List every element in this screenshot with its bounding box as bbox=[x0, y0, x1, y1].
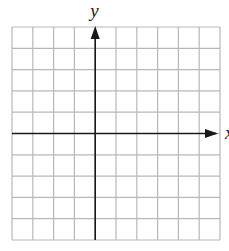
y-axis-arrow-icon bbox=[91, 26, 100, 39]
x-axis-label: x bbox=[224, 122, 229, 143]
coordinate-plane: x y bbox=[0, 0, 229, 251]
x-axis-arrow-icon bbox=[205, 129, 218, 138]
coordinate-grid-svg: x y bbox=[0, 0, 229, 251]
y-axis-label: y bbox=[88, 0, 99, 21]
axes: x y bbox=[12, 0, 229, 240]
